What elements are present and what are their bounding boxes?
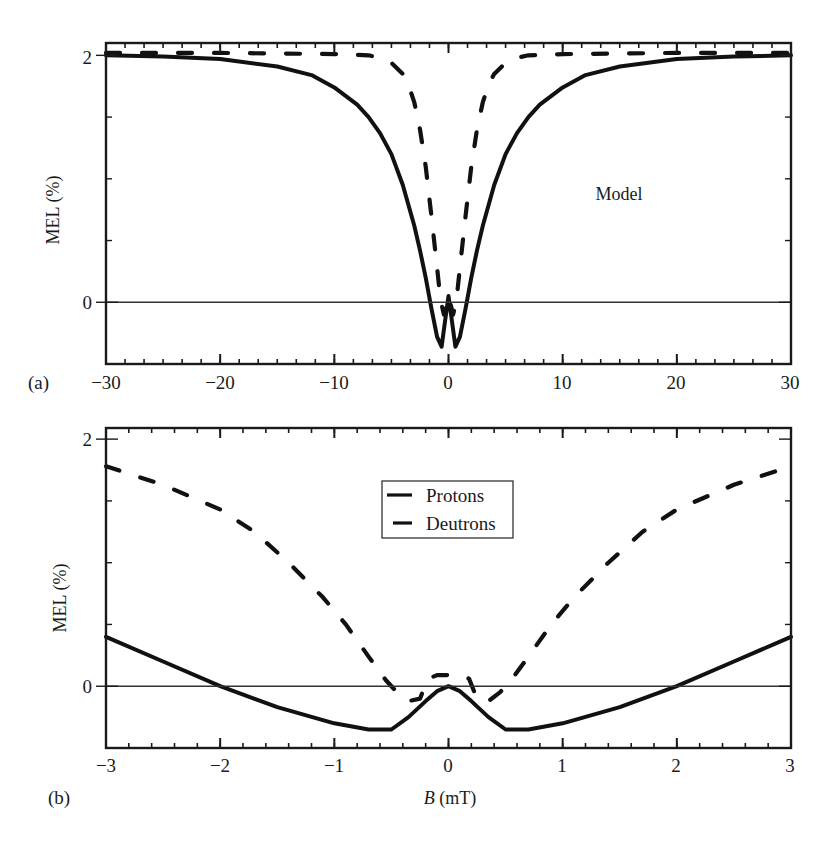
panel-a-frame [106, 43, 791, 364]
panel-b-xtick-label: −3 [96, 755, 116, 776]
panel-b-ytick-label: 0 [83, 676, 93, 697]
panel-a-xtick-label: 10 [553, 372, 572, 393]
panel-b-label: (b) [48, 787, 70, 809]
panel-b-xtick-label: 3 [785, 755, 795, 776]
panel-a-ylabel: MEL (%) [43, 176, 64, 245]
panel-b-xlabel-symbol: B [424, 788, 435, 808]
panel-b-xtick-label: 2 [671, 755, 681, 776]
legend-label-deutrons: Deutrons [426, 513, 496, 534]
panel-a-ytick-label: 2 [83, 47, 93, 68]
panel-b: 0 2 −3 −2 −1 0 1 2 3 (b) B (mT) MEL (%) … [48, 428, 795, 809]
panel-b-ytick-label: 2 [83, 429, 93, 450]
panel-b-series-protons-line [106, 637, 791, 730]
panel-a-label: (a) [28, 372, 49, 394]
panel-a-xtick-label: −30 [91, 372, 121, 393]
panel-a: 0 2 −30 −20 −10 0 10 20 30 (a) MEL (%) M… [28, 43, 800, 394]
panel-a-series-deutrons-line [106, 53, 791, 315]
panel-b-ylabel: MEL (%) [50, 564, 71, 633]
panel-a-xtick-label: 0 [443, 372, 453, 393]
panel-a-xtick-label: −10 [319, 372, 349, 393]
figure: 0 2 −30 −20 −10 0 10 20 30 (a) MEL (%) M… [0, 0, 817, 845]
panel-b-xtick-label: 0 [443, 755, 453, 776]
panel-b-xlabel-unit: (mT) [435, 788, 476, 809]
panel-b-xtick-label: −2 [210, 755, 230, 776]
panel-a-xtick-label: −20 [205, 372, 235, 393]
panel-b-xtick-label: 1 [557, 755, 567, 776]
panel-b-xlabel: B (mT) [424, 788, 476, 809]
panel-a-xtick-label: 30 [781, 372, 800, 393]
legend-label-protons: Protons [426, 485, 484, 506]
panel-a-xtick-label: 20 [667, 372, 686, 393]
panel-b-frame [106, 428, 791, 748]
panel-a-annotation: Model [596, 184, 643, 204]
legend: Protons Deutrons [382, 481, 513, 538]
panel-b-axes [96, 428, 791, 748]
panel-b-xtick-label: −1 [324, 755, 344, 776]
panel-a-ytick-label: 0 [83, 292, 93, 313]
